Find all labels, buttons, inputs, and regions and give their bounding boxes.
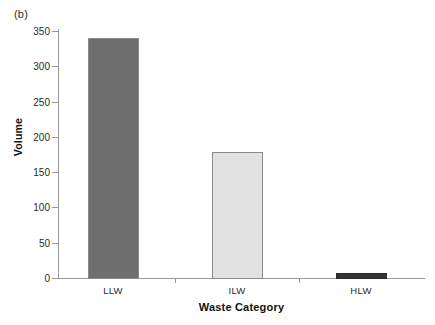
y-tick-label-100: 100 bbox=[4, 202, 50, 213]
x-tick-label-hlw: HLW bbox=[326, 285, 396, 296]
x-tick-label-llw: LLW bbox=[78, 285, 148, 296]
bar-llw bbox=[88, 38, 139, 279]
y-axis-tick-labels: 0 50 100 150 200 250 300 350 bbox=[0, 0, 50, 325]
y-tick-label-250: 250 bbox=[4, 96, 50, 107]
x-tick-label-ilw: ILW bbox=[202, 285, 272, 296]
x-tick-mark-2 bbox=[299, 278, 300, 283]
bar-ilw bbox=[212, 152, 263, 279]
y-tick-label-50: 50 bbox=[4, 237, 50, 248]
y-axis-title: Volume bbox=[12, 107, 24, 167]
y-axis-line bbox=[58, 29, 59, 279]
x-axis-title: Waste Category bbox=[58, 301, 425, 313]
y-tick-label-200: 200 bbox=[4, 131, 50, 142]
chart-figure: (b) 0 50 100 150 200 250 300 350 LLW ILW… bbox=[0, 0, 435, 325]
y-tick-label-300: 300 bbox=[4, 61, 50, 72]
y-tick-label-150: 150 bbox=[4, 167, 50, 178]
y-tick-label-0: 0 bbox=[4, 273, 50, 284]
y-tick-label-350: 350 bbox=[4, 26, 50, 37]
x-tick-mark-1 bbox=[175, 278, 176, 283]
bar-hlw bbox=[336, 273, 387, 279]
